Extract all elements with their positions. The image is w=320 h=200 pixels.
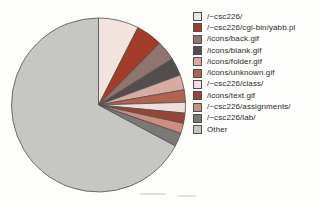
scan-artifact (140, 193, 166, 195)
legend-item: Other (193, 124, 295, 135)
legend-swatch (193, 46, 202, 55)
legend-label: /~csc226/ (207, 13, 242, 21)
chart-legend: /~csc226//~csc226/cgi-bin/yabb.pl/icons/… (193, 11, 295, 135)
legend-label: /~csc226/assignments/ (207, 103, 291, 111)
legend-item: /icons/folder.gif (193, 56, 295, 67)
legend-item: /~csc226/class/ (193, 79, 295, 90)
legend-item: /icons/unknown.gif (193, 67, 295, 78)
legend-swatch (193, 91, 202, 100)
legend-label: /icons/folder.gif (207, 58, 262, 66)
legend-swatch (193, 125, 202, 134)
legend-label: /~csc226/lab/ (207, 114, 256, 122)
pie-chart-figure: /~csc226//~csc226/cgi-bin/yabb.pl/icons/… (0, 0, 320, 200)
legend-swatch (193, 103, 202, 112)
legend-label: /icons/text.gif (207, 92, 255, 100)
legend-label: /~csc226/class/ (207, 80, 263, 88)
legend-label: /~csc226/cgi-bin/yabb.pl (207, 24, 295, 32)
legend-swatch (193, 12, 202, 21)
legend-item: /~csc226/ (193, 11, 295, 22)
legend-swatch (193, 80, 202, 89)
legend-label: Other (207, 126, 228, 134)
legend-item: /icons/back.gif (193, 34, 295, 45)
legend-item: /~csc226/lab/ (193, 113, 295, 124)
legend-item: /~csc226/cgi-bin/yabb.pl (193, 22, 295, 33)
legend-swatch (193, 57, 202, 66)
legend-label: /icons/blank.gif (207, 47, 262, 55)
legend-item: /icons/blank.gif (193, 45, 295, 56)
legend-label: /icons/unknown.gif (207, 69, 275, 77)
legend-item: /~csc226/assignments/ (193, 101, 295, 112)
legend-item: /icons/text.gif (193, 90, 295, 101)
legend-swatch (193, 23, 202, 32)
legend-swatch (193, 69, 202, 78)
legend-swatch (193, 114, 202, 123)
legend-label: /icons/back.gif (207, 35, 259, 43)
legend-swatch (193, 35, 202, 44)
scan-artifact (178, 195, 196, 197)
